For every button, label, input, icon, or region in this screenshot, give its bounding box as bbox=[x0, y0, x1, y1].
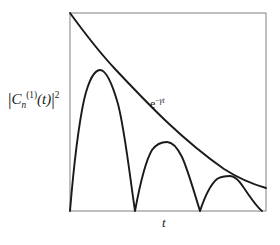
plot-frame bbox=[70, 13, 266, 211]
envelope-curve bbox=[70, 13, 266, 188]
annotation-exponent: −γt bbox=[155, 96, 164, 105]
y-label-exponent: 2 bbox=[55, 90, 60, 100]
y-axis-label: |Cn(1)(t)|2 bbox=[8, 91, 59, 109]
y-label-superscript: (1) bbox=[26, 90, 37, 100]
damped-oscillation-figure: |Cn(1)(t)|2 t e−γt bbox=[0, 0, 280, 245]
oscillation-curve bbox=[70, 70, 262, 211]
envelope-annotation: e−γt bbox=[150, 98, 165, 110]
y-label-subscript: n bbox=[22, 100, 27, 110]
plot-canvas bbox=[0, 0, 280, 245]
annotation-time-variable: t bbox=[162, 96, 164, 105]
y-label-argument: (t) bbox=[37, 91, 51, 107]
x-axis-label: t bbox=[162, 216, 166, 229]
y-label-base-symbol: C bbox=[12, 91, 22, 107]
